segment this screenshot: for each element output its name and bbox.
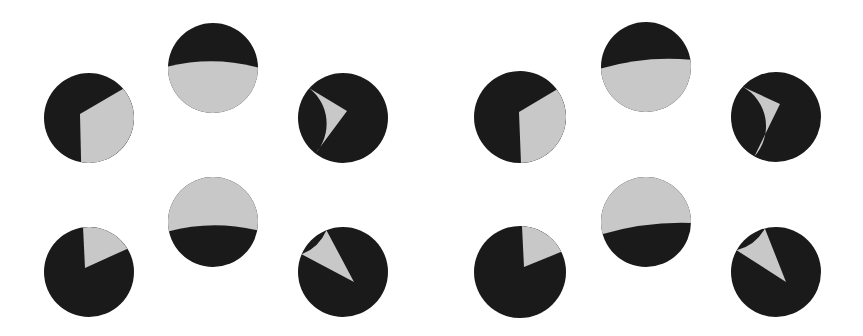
- pie-dark-region: [298, 73, 388, 163]
- right-pie-set: [474, 22, 821, 318]
- pie-top-left: [474, 71, 566, 163]
- pie-top-middle: [166, 23, 260, 115]
- pie-top-right: [298, 73, 388, 163]
- pie-bottom-left: [44, 227, 134, 317]
- left-pie-set: [44, 23, 388, 317]
- pie-bottom-right: [298, 227, 388, 317]
- pie-bottom-left: [474, 226, 566, 318]
- pie-bottom-middle: [166, 175, 260, 267]
- pie-stimulus-canvas: [0, 0, 863, 336]
- pie-top-right: [731, 72, 821, 162]
- pie-light-segment: [166, 175, 260, 232]
- pie-top-left: [44, 73, 134, 163]
- pie-dark-region: [731, 72, 821, 162]
- pie-light-segment: [599, 59, 693, 114]
- pie-light-segment: [166, 61, 260, 115]
- pie-bottom-middle: [599, 175, 693, 267]
- pie-bottom-right: [731, 227, 821, 317]
- pie-top-middle: [599, 22, 693, 114]
